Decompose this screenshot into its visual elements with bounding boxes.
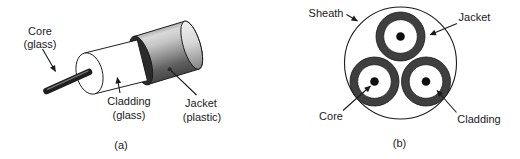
core-label-line1: Core: [28, 25, 52, 37]
fiber-bottom-left: [350, 57, 399, 106]
panel-b: Sheath Jacket Core Cladding (b): [260, 0, 520, 159]
cladding-label-line1: Cladding: [107, 95, 150, 107]
cladding-cylinder: [72, 40, 148, 97]
fiber-bottom-right: [402, 57, 451, 106]
core-label-line2: (glass): [23, 38, 56, 50]
panel-b-diagram: Sheath Jacket Core Cladding (b): [260, 0, 520, 159]
sheath-callout-arrow: [347, 15, 358, 22]
sheath-label: Sheath: [309, 7, 344, 19]
core-callout-arrow: [43, 49, 56, 72]
cladding-label-line2: (glass): [112, 109, 145, 121]
cladding-label: Cladding: [457, 113, 500, 125]
panel-a: Core (glass) Cladding (glass) Jacket (pl…: [0, 0, 260, 159]
jacket-label-line2: (plastic): [183, 111, 222, 123]
fiber-top: [376, 12, 425, 61]
panel-b-caption: (b): [393, 137, 406, 149]
fiber-optic-figure: Core (glass) Cladding (glass) Jacket (pl…: [0, 0, 520, 159]
panel-a-diagram: Core (glass) Cladding (glass) Jacket (pl…: [0, 0, 260, 159]
fiber-bottom-left-core-dot: [370, 77, 379, 86]
jacket-label-line1: Jacket: [185, 97, 217, 109]
panel-a-caption: (a): [114, 139, 127, 151]
fiber-top-core-dot: [396, 32, 405, 41]
core-label: Core: [319, 110, 343, 122]
jacket-callout-dot: [168, 67, 172, 71]
jacket-label: Jacket: [459, 11, 491, 23]
fiber-bottom-right-core-dot: [422, 77, 431, 86]
